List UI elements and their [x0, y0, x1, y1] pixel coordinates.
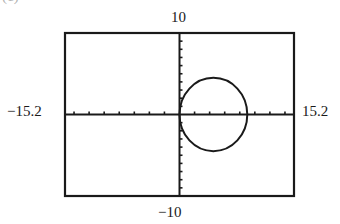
graph-window: [0, 0, 340, 224]
